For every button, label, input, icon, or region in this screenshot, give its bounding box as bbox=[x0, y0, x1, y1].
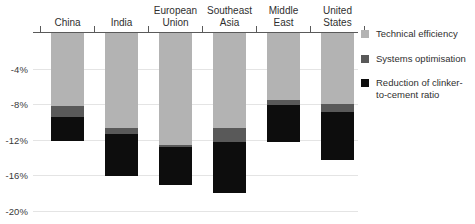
category-label: European Union bbox=[148, 5, 203, 28]
plot-area: -4%-8%-12%-16%-20%ChinaIndiaEuropean Uni… bbox=[33, 33, 358, 211]
y-axis-label: -16% bbox=[5, 170, 28, 181]
category-label: United States bbox=[310, 5, 365, 28]
y-axis-label: -12% bbox=[5, 134, 28, 145]
chart-legend: Technical efficiencySystems optimisation… bbox=[361, 28, 473, 113]
legend-swatch-icon bbox=[361, 55, 369, 63]
bar-segment[interactable] bbox=[51, 33, 84, 106]
gridline--16 bbox=[33, 175, 358, 176]
bar-segment[interactable] bbox=[213, 142, 246, 193]
legend-item[interactable]: Reduction of clinker- to-cement ratio bbox=[361, 77, 473, 100]
bar-segment[interactable] bbox=[51, 117, 84, 141]
category-label: Southeast Asia bbox=[202, 5, 257, 28]
legend-swatch-icon bbox=[361, 30, 369, 38]
legend-item[interactable]: Systems optimisation bbox=[361, 53, 473, 65]
bar-segment[interactable] bbox=[105, 134, 138, 177]
category-label: China bbox=[40, 17, 95, 29]
category-label: Middle East bbox=[256, 5, 311, 28]
bar-segment[interactable] bbox=[321, 33, 354, 104]
y-axis-label: -8% bbox=[11, 99, 28, 110]
y-axis-label: -20% bbox=[5, 206, 28, 217]
bar-segment[interactable] bbox=[51, 106, 84, 117]
stacked-bar-chart: -4%-8%-12%-16%-20%ChinaIndiaEuropean Uni… bbox=[0, 0, 475, 224]
bar-segment[interactable] bbox=[213, 128, 246, 142]
bar-segment[interactable] bbox=[321, 104, 354, 112]
bar-segment[interactable] bbox=[159, 147, 192, 185]
y-axis-label: -4% bbox=[11, 63, 28, 74]
category-label: India bbox=[94, 17, 149, 29]
legend-item[interactable]: Technical efficiency bbox=[361, 28, 473, 40]
bar-segment[interactable] bbox=[105, 33, 138, 128]
legend-label: Reduction of clinker- to-cement ratio bbox=[376, 77, 463, 100]
legend-label: Technical efficiency bbox=[376, 28, 458, 40]
bar-segment[interactable] bbox=[267, 105, 300, 142]
bar-segment[interactable] bbox=[213, 33, 246, 128]
bar-segment[interactable] bbox=[267, 33, 300, 100]
gridline--20 bbox=[33, 211, 358, 212]
bar-segment[interactable] bbox=[321, 112, 354, 160]
legend-swatch-icon bbox=[361, 79, 369, 87]
bar-segment[interactable] bbox=[159, 33, 192, 145]
legend-label: Systems optimisation bbox=[376, 53, 466, 65]
